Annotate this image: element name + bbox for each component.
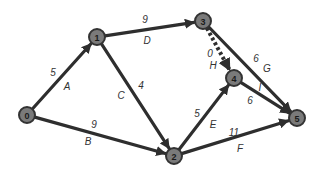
nodes-layer: 012345 — [19, 13, 305, 164]
node-label: 1 — [94, 33, 99, 43]
edges-layer — [32, 22, 290, 153]
node-1: 1 — [89, 29, 105, 45]
edge-i-weight: 6 — [247, 95, 253, 106]
edge-h-activity-label: H — [209, 60, 217, 71]
edge-d-activity-label: D — [143, 35, 150, 46]
node-label: 0 — [24, 111, 29, 121]
node-label: 2 — [171, 152, 176, 162]
edge-a-arrow — [32, 44, 91, 109]
network-diagram: 5A9B4C9D5E11F6G0H6I 012345 — [0, 0, 326, 177]
edge-a-weight: 5 — [50, 67, 56, 78]
edge-e-activity-label: E — [210, 119, 217, 130]
edge-f-activity-label: F — [237, 143, 244, 154]
edge-h-weight: 0 — [207, 48, 213, 59]
edge-b-weight: 9 — [91, 119, 97, 130]
edge-i-activity-label: I — [259, 82, 262, 93]
edge-e-weight: 5 — [194, 108, 200, 119]
node-5: 5 — [289, 110, 305, 126]
node-0: 0 — [19, 107, 35, 123]
edge-c-arrow — [101, 44, 169, 149]
edge-g-weight: 6 — [253, 53, 259, 64]
node-label: 4 — [231, 74, 236, 84]
node-label: 5 — [294, 114, 299, 124]
edge-g-activity-label: G — [263, 63, 271, 74]
edge-c-activity-label: C — [117, 90, 125, 101]
edge-d-weight: 9 — [142, 14, 148, 25]
edge-a-activity-label: A — [63, 81, 71, 92]
edge-c-weight: 4 — [138, 80, 144, 91]
node-3: 3 — [195, 13, 211, 29]
edge-b-arrow — [35, 117, 166, 153]
node-label: 3 — [200, 17, 205, 27]
edge-f-weight: 11 — [229, 127, 239, 138]
node-2: 2 — [166, 148, 182, 164]
node-4: 4 — [226, 70, 242, 86]
edge-b-activity-label: B — [85, 136, 92, 147]
